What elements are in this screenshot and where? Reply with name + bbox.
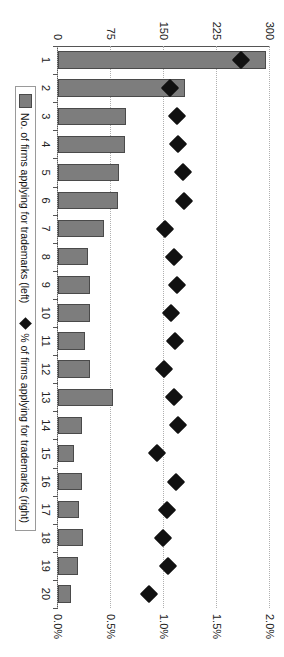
category-tick-label: 18 (40, 532, 52, 544)
diamond-marker (154, 529, 172, 547)
category-tick-label: 17 (40, 504, 52, 516)
legend-item-bars: No. of firms applying for trademarks (le… (19, 94, 32, 303)
category-tick-label: 13 (40, 391, 52, 403)
diamond-marker (169, 135, 187, 153)
diamond-marker (164, 388, 182, 406)
bar-swatch-icon (19, 94, 32, 108)
category-tick-label: 14 (40, 419, 52, 431)
category-tick-label: 12 (40, 363, 52, 375)
category-tick-label: 19 (40, 560, 52, 572)
category-tick-mark (53, 580, 58, 581)
left-tick-label: 0 (52, 34, 64, 40)
category-tick-label: 1 (40, 57, 52, 63)
category-tick-label: 5 (40, 169, 52, 175)
category-tick-mark (53, 271, 58, 272)
diamond-marker (168, 276, 186, 294)
diamond-marker (158, 500, 176, 518)
right-tick-label: 0.0% (52, 614, 64, 639)
diamond-marker (162, 304, 180, 322)
right-tick-label: 1.0% (158, 614, 170, 639)
category-tick-label: 9 (40, 282, 52, 288)
category-tick-mark (53, 215, 58, 216)
right-tick-label: 1.5% (211, 614, 223, 639)
category-tick-label: 3 (40, 113, 52, 119)
diamond-marker (159, 557, 177, 575)
category-tick-label: 15 (40, 447, 52, 459)
diamond-marker (140, 585, 158, 603)
category-tick-mark (53, 299, 58, 300)
category-tick-label: 20 (40, 588, 52, 600)
diamond-marker (168, 107, 186, 125)
diamond-marker (169, 416, 187, 434)
category-tick-label: 6 (40, 197, 52, 203)
category-tick-label: 4 (40, 141, 52, 147)
category-tick-label: 10 (40, 307, 52, 319)
diamond-marker (164, 248, 182, 266)
category-tick-mark (53, 102, 58, 103)
diamond-marker (155, 360, 173, 378)
category-tick-mark (53, 327, 58, 328)
diamond-marker (175, 191, 193, 209)
category-tick-mark (53, 439, 58, 440)
category-tick-mark (53, 243, 58, 244)
diamond-marker (174, 163, 192, 181)
left-tick-label: 225 (211, 22, 223, 40)
category-tick-mark (53, 158, 58, 159)
right-tick-label: 2.0% (264, 614, 276, 639)
category-tick-mark (53, 46, 58, 47)
legend-label-percent: % of firms applying for trademarks (righ… (20, 333, 32, 523)
diamond-marker (147, 444, 165, 462)
category-tick-mark (53, 468, 58, 469)
category-tick-mark (53, 130, 58, 131)
diamond-marker (161, 79, 179, 97)
category-tick-mark (53, 187, 58, 188)
category-tick-label: 2 (40, 85, 52, 91)
category-tick-mark (53, 608, 58, 609)
right-tick-label: 0.5% (105, 614, 117, 639)
plot-area (58, 46, 270, 608)
category-tick-label: 8 (40, 254, 52, 260)
diamond-marker (156, 219, 174, 237)
category-tick-mark (53, 74, 58, 75)
chart-figure: 075150225300 0.0%0.5%1.0%1.5%2.0% 123456… (0, 0, 284, 657)
category-tick-mark (53, 411, 58, 412)
rotated-chart-wrapper: 075150225300 0.0%0.5%1.0%1.5%2.0% 123456… (0, 0, 284, 657)
legend-label-bars: No. of firms applying for trademarks (le… (20, 113, 32, 303)
left-tick-label: 150 (158, 22, 170, 40)
diamond-series (58, 46, 270, 608)
category-tick-mark (53, 355, 58, 356)
diamond-marker (166, 472, 184, 490)
category-tick-label: 16 (40, 475, 52, 487)
legend-item-percent: % of firms applying for trademarks (righ… (20, 319, 32, 523)
left-tick-label: 75 (105, 28, 117, 40)
diamond-marker-icon (19, 317, 32, 330)
category-tick-mark (53, 383, 58, 384)
diamond-marker (165, 332, 183, 350)
category-tick-label: 11 (40, 335, 52, 346)
left-tick-label: 300 (264, 22, 276, 40)
diamond-marker (232, 51, 250, 69)
chart-legend: No. of firms applying for trademarks (le… (15, 86, 36, 531)
category-tick-mark (53, 496, 58, 497)
category-tick-label: 7 (40, 226, 52, 232)
category-tick-mark (53, 524, 58, 525)
category-tick-mark (53, 552, 58, 553)
